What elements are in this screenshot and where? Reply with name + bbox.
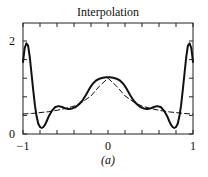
tick-labels: −10102 <box>9 34 196 153</box>
y-tick-label: 0 <box>9 127 15 141</box>
chart-title: Interpolation <box>77 5 139 19</box>
series-group <box>23 43 193 128</box>
y-tick-label: 2 <box>9 34 15 48</box>
x-tick-label: −1 <box>17 139 30 153</box>
x-tick-label: 1 <box>190 139 196 153</box>
chart-caption: (a) <box>101 153 115 167</box>
x-tick-label: 0 <box>105 139 111 153</box>
interpolant-line <box>23 43 193 128</box>
exact-function-line <box>23 78 193 114</box>
chart: Interpolation −10102 (a) <box>0 0 208 177</box>
